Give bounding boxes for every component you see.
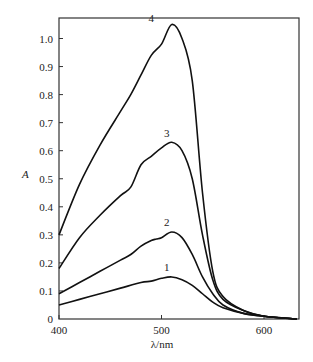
series-3-line: [59, 142, 297, 319]
curve-label-4: 4: [149, 12, 155, 24]
absorption-spectrum-chart: 00.10.20.30.40.50.60.70.80.91.0 40050060…: [0, 0, 313, 362]
data-series: [59, 24, 297, 319]
y-tick-label: 0.5: [39, 173, 53, 185]
y-tick-label: 0.3: [39, 229, 53, 241]
y-tick-label: 0.2: [39, 257, 53, 269]
x-tick-label: 500: [153, 324, 170, 336]
y-tick-label: 0.8: [39, 89, 53, 101]
x-tick-label: 400: [51, 324, 68, 336]
y-tick-label: 0.4: [39, 201, 53, 213]
curve-label-1: 1: [164, 261, 170, 273]
y-tick-label: 0.6: [39, 145, 53, 157]
y-tick-label: 1.0: [39, 33, 53, 45]
y-tick-label: 0.7: [39, 117, 53, 129]
curve-label-3: 3: [164, 127, 170, 139]
series-1-line: [59, 277, 297, 319]
x-axis-ticks: 400500600: [51, 315, 273, 336]
x-tick-label: 600: [256, 324, 273, 336]
x-axis-label: λ/nm: [151, 338, 174, 350]
y-tick-label: 0.9: [39, 61, 53, 73]
series-2-line: [59, 232, 297, 319]
curve-label-2: 2: [164, 216, 170, 228]
y-axis-label: A: [21, 168, 29, 180]
y-tick-label: 0.1: [39, 285, 53, 297]
